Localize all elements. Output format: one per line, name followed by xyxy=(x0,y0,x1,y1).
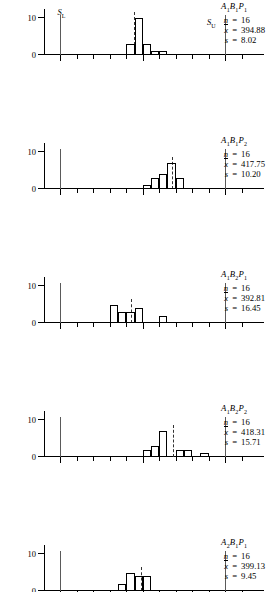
y-axis-tick xyxy=(38,419,44,420)
x-axis-major-tick xyxy=(225,323,226,329)
x-axis-minor-tick xyxy=(159,323,160,327)
histogram-figure: 010A1B1P1n=16x=394.88s=8.02SLSU010A1B1P2… xyxy=(0,0,268,592)
x-axis-minor-tick xyxy=(110,457,111,461)
y-axis-tick-label: 10 xyxy=(14,416,36,425)
histogram-bar xyxy=(151,446,159,457)
y-axis-tick xyxy=(38,590,44,591)
histogram-bar xyxy=(126,44,134,55)
stat-row-n: n=16 xyxy=(215,15,266,25)
y-axis-tick xyxy=(38,151,44,152)
stat-value-n: 16 xyxy=(240,417,266,427)
histogram-panel-a1b1p1: 010A1B1P1n=16x=394.88s=8.02SLSU xyxy=(0,0,268,67)
x-axis-minor-tick xyxy=(93,189,94,193)
x-axis-minor-tick xyxy=(242,323,243,327)
stat-row-mean: x=417.75 xyxy=(215,159,266,169)
y-axis-tick xyxy=(38,285,44,286)
spec-limit-lower-label: SL xyxy=(57,8,65,21)
histogram-panel-a1b1p2: 010A1B1P2n=16x=417.75s=10.20 xyxy=(0,134,268,201)
stat-value-mean: 417.75 xyxy=(240,159,266,169)
panel-title: A1B2P1 xyxy=(215,269,266,283)
x-axis-minor-tick xyxy=(176,55,177,59)
x-axis-minor-tick xyxy=(159,189,160,193)
x-axis-minor-tick xyxy=(242,189,243,193)
histogram-bar xyxy=(184,450,192,457)
x-axis-minor-tick xyxy=(192,55,193,59)
stat-value-sd: 15.71 xyxy=(240,437,266,447)
stat-row-mean: x=392.81 xyxy=(215,293,266,303)
x-axis-minor-tick xyxy=(209,323,210,327)
stat-label-mean: x xyxy=(215,25,229,35)
stat-label-sd: s xyxy=(215,303,229,313)
stat-row-mean: x=418.31 xyxy=(215,427,266,437)
x-axis-minor-tick xyxy=(110,323,111,327)
x-axis-minor-tick xyxy=(209,457,210,461)
stat-value-sd: 9.45 xyxy=(240,571,266,581)
stat-row-n: n=16 xyxy=(215,417,266,427)
histogram-bar xyxy=(135,576,143,591)
histogram-bar xyxy=(167,163,175,189)
histogram-bar xyxy=(159,316,167,323)
stat-value-sd: 10.20 xyxy=(240,169,266,179)
x-axis-major-tick xyxy=(225,457,226,463)
panel-title: A1B2P2 xyxy=(215,403,266,417)
stat-label-sd: s xyxy=(215,437,229,447)
stat-label-sd: s xyxy=(215,35,229,45)
stat-value-n: 16 xyxy=(240,15,266,25)
x-axis-minor-tick xyxy=(209,55,210,59)
y-axis-line xyxy=(44,9,45,55)
spec-limit-upper-label: SU xyxy=(207,18,216,31)
y-axis-tick xyxy=(38,322,44,323)
x-axis-minor-tick xyxy=(176,189,177,193)
x-axis-major-tick xyxy=(143,55,144,61)
histogram-bar xyxy=(176,450,184,457)
histogram-panel-a2b1p1: 010A2B1P1n=16x=399.13s=9.45 xyxy=(0,536,268,592)
histogram-bar xyxy=(110,305,118,323)
y-axis-tick-label: 0 xyxy=(14,453,36,462)
stat-label-mean: x xyxy=(215,561,229,571)
stat-value-n: 16 xyxy=(240,283,266,293)
histogram-bar xyxy=(135,308,143,323)
y-axis-tick-label: 0 xyxy=(14,185,36,194)
panel-stats: A1B2P1n=16x=392.81s=16.45 xyxy=(215,269,266,314)
y-axis-tick xyxy=(38,17,44,18)
y-axis-line xyxy=(44,411,45,457)
stat-row-sd: s=8.02 xyxy=(215,35,266,45)
x-axis-minor-tick xyxy=(159,457,160,461)
x-axis-minor-tick xyxy=(110,55,111,59)
x-axis-minor-tick xyxy=(77,457,78,461)
x-axis-minor-tick xyxy=(126,55,127,59)
stat-row-n: n=16 xyxy=(215,283,266,293)
x-axis-minor-tick xyxy=(77,189,78,193)
stat-value-sd: 8.02 xyxy=(240,35,266,45)
histogram-bar xyxy=(118,584,126,591)
stat-row-n: n=16 xyxy=(215,149,266,159)
histogram-bar xyxy=(159,431,167,457)
x-axis-minor-tick xyxy=(77,323,78,327)
spec-limit-lower-line xyxy=(60,149,61,189)
x-axis-major-tick xyxy=(143,323,144,329)
stat-value-mean: 394.88 xyxy=(240,25,266,35)
x-axis-minor-tick xyxy=(110,189,111,193)
y-axis-tick xyxy=(38,188,44,189)
y-axis-tick xyxy=(38,456,44,457)
y-axis-line xyxy=(44,277,45,323)
panel-title: A1B1P2 xyxy=(215,135,266,149)
panel-stats: A1B1P2n=16x=417.75s=10.20 xyxy=(215,135,266,180)
x-axis-major-tick xyxy=(143,189,144,195)
histogram-bar xyxy=(143,450,151,457)
panel-stats: A1B1P1n=16x=394.88s=8.02 xyxy=(215,1,266,46)
stat-value-mean: 392.81 xyxy=(240,293,266,303)
spec-limit-lower-line xyxy=(60,283,61,323)
stat-value-n: 16 xyxy=(240,551,266,561)
stat-label-mean: x xyxy=(215,159,229,169)
stat-label-mean: x xyxy=(215,293,229,303)
histogram-bar xyxy=(200,453,208,457)
x-axis-minor-tick xyxy=(126,189,127,193)
y-axis-tick-label: 10 xyxy=(14,282,36,291)
panel-stats: A2B1P1n=16x=399.13s=9.45 xyxy=(215,537,266,582)
x-axis-minor-tick xyxy=(209,189,210,193)
x-axis-minor-tick xyxy=(77,55,78,59)
spec-limit-lower-line xyxy=(60,417,61,457)
x-axis-major-tick xyxy=(143,457,144,463)
stat-row-mean: x=399.13 xyxy=(215,561,266,571)
